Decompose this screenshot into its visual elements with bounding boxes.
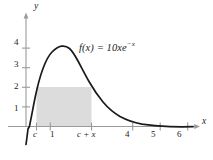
x-tick-label: c — [33, 130, 37, 139]
figure-container: y x f(x) = 10xe−x 1 2 3 4 c 1 c + x 4 5 … — [0, 0, 213, 160]
y-axis-label: y — [34, 2, 38, 12]
shaded-rectangle — [37, 87, 92, 126]
y-tick-label: 2 — [14, 82, 19, 91]
equation-base: f(x) = 10xe — [79, 42, 127, 53]
x-tick-label: 1 — [50, 130, 55, 139]
x-tick-label: 6 — [177, 130, 182, 139]
x-tick-label: 4 — [125, 130, 130, 139]
equation-exponent: −x — [127, 40, 135, 48]
y-tick-label: 1 — [14, 104, 19, 113]
equation-annotation: f(x) = 10xe−x — [79, 41, 135, 53]
x-axis-arrow — [194, 124, 200, 129]
x-axis-label: x — [202, 117, 206, 127]
y-tick-label: 3 — [14, 60, 19, 69]
x-tick-label: c + x — [77, 130, 96, 139]
x-tick-label: 5 — [151, 130, 156, 139]
y-tick-label: 4 — [14, 38, 19, 47]
y-axis-arrow — [24, 13, 29, 19]
